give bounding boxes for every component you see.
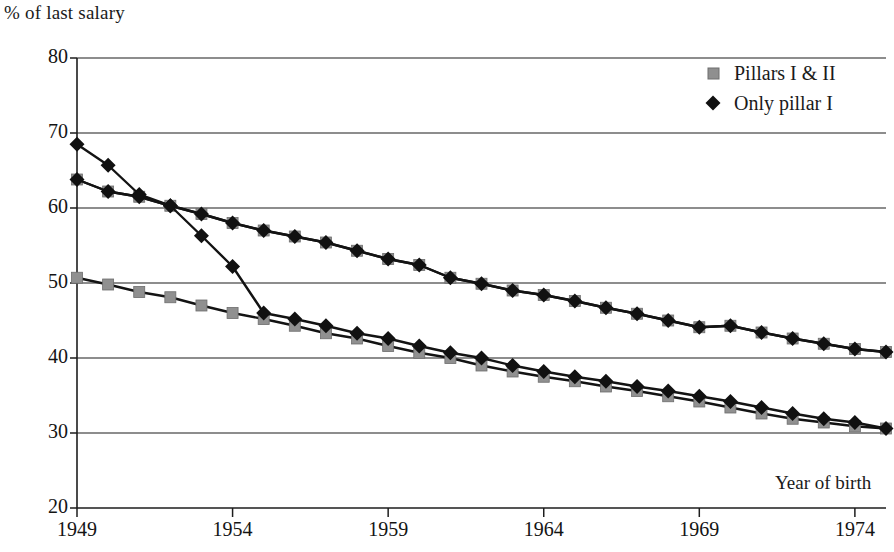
y-tick-label: 50 [20, 270, 68, 293]
data-point-square [165, 292, 176, 303]
x-axis-title: Year of birth [775, 472, 871, 494]
data-point-square [134, 287, 145, 298]
data-point-square [103, 279, 114, 290]
data-series-layer [70, 137, 894, 436]
y-tick-label: 60 [20, 195, 68, 218]
chart-container: % of last salary 80706050403020 19491954… [0, 0, 894, 552]
legend-label: Only pillar I [734, 92, 833, 115]
y-tick-label: 80 [20, 45, 68, 68]
x-tick-label: 1969 [669, 518, 729, 541]
series-markers [70, 172, 894, 360]
data-point-square [72, 272, 83, 283]
legend-item-pillars-i-and-ii: Pillars I & II [700, 58, 890, 88]
x-tick-label: 1949 [47, 518, 107, 541]
series-line [77, 180, 886, 353]
x-tick-label: 1964 [514, 518, 574, 541]
y-tick-label: 70 [20, 120, 68, 143]
series-markers [72, 174, 892, 358]
data-point-diamond [70, 137, 85, 152]
diamond-marker-icon [700, 94, 726, 112]
legend-item-only-pillar-i: Only pillar I [700, 88, 890, 118]
y-tick-label: 30 [20, 420, 68, 443]
legend: Pillars I & II Only pillar I [700, 58, 890, 118]
square-marker-icon [700, 65, 726, 81]
series-line [77, 180, 886, 353]
legend-label: Pillars I & II [734, 62, 836, 85]
x-tick-label: 1959 [358, 518, 418, 541]
y-tick-label: 40 [20, 345, 68, 368]
data-point-square [196, 300, 207, 311]
x-tick-marks [77, 508, 855, 517]
data-point-square [227, 308, 238, 319]
y-tick-label: 20 [20, 495, 68, 518]
x-tick-label: 1974 [825, 518, 885, 541]
x-tick-label: 1954 [203, 518, 263, 541]
